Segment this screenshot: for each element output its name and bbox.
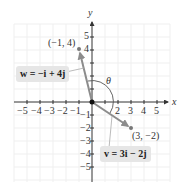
x-tick-label: 4 [141, 106, 146, 116]
y-tick-label: −4 [80, 149, 91, 159]
x-tick-label: 2 [115, 106, 120, 116]
x-tick-label: −3 [44, 106, 55, 116]
vector-v [92, 102, 128, 126]
leader-v [109, 116, 112, 148]
y-tick-label: −2 [80, 123, 91, 133]
vector-w [80, 53, 92, 102]
origin-point [90, 100, 95, 105]
x-tick-label: 3 [128, 106, 133, 116]
x-tick-label: −4 [31, 106, 42, 116]
y-tick-label: 4 [84, 44, 89, 54]
angle-theta-label: θ [106, 76, 111, 86]
point-label-w: (−1, 4) [48, 38, 75, 48]
x-axis-label: x [172, 97, 176, 107]
y-tick-label: −1 [80, 110, 91, 120]
coordinate-plane [0, 0, 186, 192]
x-tick-label: 5 [154, 106, 159, 116]
point-label-v: (3, −2) [132, 131, 159, 141]
y-tick-label: −5 [80, 162, 91, 172]
x-tick-label: −5 [17, 106, 28, 116]
x-tick-label: −2 [57, 106, 68, 116]
y-axis-label: y [88, 8, 92, 18]
y-tick-label: −3 [80, 136, 91, 146]
vector-v-label: v = 3i − 2j [100, 146, 151, 162]
vector-w-label: w = −i + 4j [16, 66, 69, 82]
point-w [77, 47, 81, 51]
y-tick-label: 5 [84, 31, 89, 41]
